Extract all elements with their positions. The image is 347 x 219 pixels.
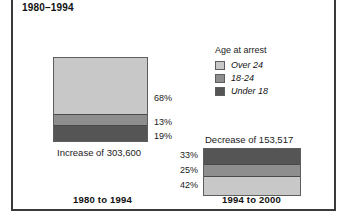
bar-label-left-18-24: 13% bbox=[154, 117, 172, 127]
legend-swatch-icon bbox=[215, 61, 225, 70]
legend-item-over-24: Over 24 bbox=[215, 59, 305, 71]
bar-segment-over-24 bbox=[54, 58, 147, 114]
caption-decrease-total: Decrease of 153,517 bbox=[205, 134, 293, 145]
category-label-1994-to-2000: 1994 to 2000 bbox=[222, 194, 281, 205]
legend-item-label: Over 24 bbox=[231, 60, 263, 70]
bar-segment-over-24 bbox=[204, 176, 300, 195]
bar-label-right-under-18: 33% bbox=[180, 150, 198, 160]
bar-segment-18-24 bbox=[54, 114, 147, 125]
bar-segment-under-18 bbox=[204, 149, 300, 164]
legend-item-label: 18-24 bbox=[231, 73, 254, 83]
bar-segment-18-24 bbox=[204, 164, 300, 176]
bar-label-right-over-24: 42% bbox=[180, 180, 198, 190]
bar-label-left-under-18: 19% bbox=[154, 131, 172, 141]
legend-item-18-24: 18-24 bbox=[215, 72, 305, 84]
legend-swatch-icon bbox=[215, 87, 225, 96]
stacked-bar-1994-2000 bbox=[203, 148, 301, 196]
category-label-1980-to-1994: 1980 to 1994 bbox=[73, 194, 132, 205]
legend-title: Age at arrest bbox=[215, 45, 305, 55]
frame-bottom-rule bbox=[11, 209, 336, 211]
legend: Age at arrest Over 24 18-24 Under 18 bbox=[215, 45, 305, 98]
figure-container: 1980–1994 68% 13% 19% Increase of 303,60… bbox=[0, 0, 347, 219]
frame-right-rule bbox=[334, 0, 336, 211]
bar-label-left-over-24: 68% bbox=[154, 93, 172, 103]
caption-increase-total: Increase of 303,600 bbox=[57, 147, 141, 158]
legend-item-label: Under 18 bbox=[231, 86, 268, 96]
frame-left-rule bbox=[11, 0, 13, 211]
bar-label-right-18-24: 25% bbox=[180, 165, 198, 175]
bar-segment-under-18 bbox=[54, 125, 147, 141]
figure-title: 1980–1994 bbox=[22, 2, 74, 13]
legend-swatch-icon bbox=[215, 74, 225, 83]
legend-item-under-18: Under 18 bbox=[215, 85, 305, 97]
stacked-bar-1980-1994 bbox=[53, 57, 148, 142]
